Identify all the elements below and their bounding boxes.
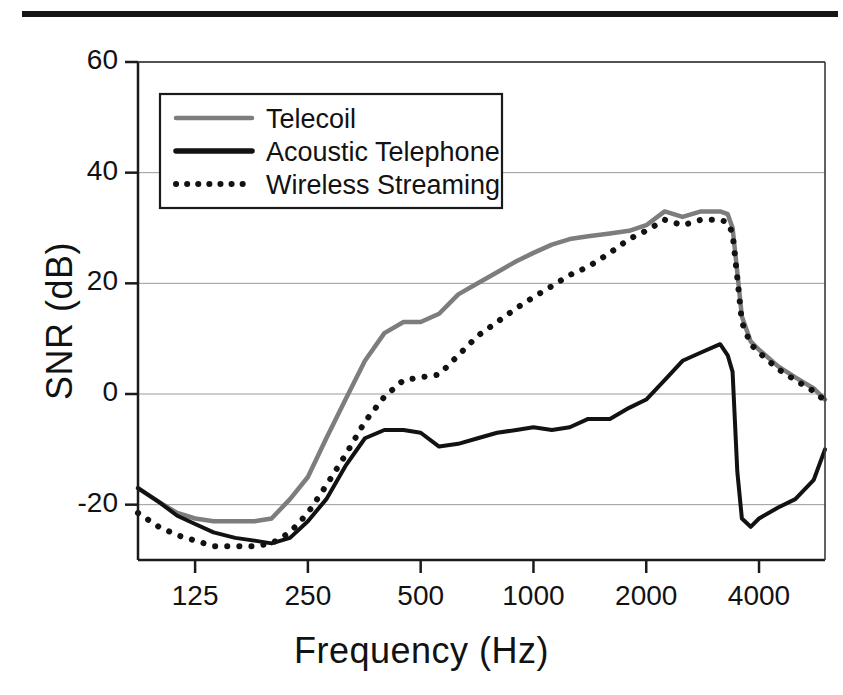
x-tick-label-500: 500	[361, 580, 481, 612]
x-tick-label-4000: 4000	[699, 580, 819, 612]
x-axis-title: Frequency (Hz)	[0, 630, 843, 672]
legend-label-wireless-streaming: Wireless Streaming	[266, 170, 500, 200]
legend-label-acoustic-telephone: Acoustic Telephone	[266, 137, 500, 167]
x-tick-label-125: 125	[135, 580, 255, 612]
x-tick-label-1000: 1000	[473, 580, 593, 612]
y-axis-title: SNR (dB)	[39, 121, 81, 521]
figure-container: TelecoilAcoustic TelephoneWireless Strea…	[0, 0, 843, 695]
legend: TelecoilAcoustic TelephoneWireless Strea…	[160, 94, 502, 208]
series-line-telecoil	[138, 211, 825, 521]
x-tick-label-250: 250	[248, 580, 368, 612]
legend-label-telecoil: Telecoil	[266, 104, 356, 134]
series-line-wireless-streaming	[138, 220, 825, 546]
y-tick-label-60: 60	[28, 44, 118, 76]
data-series-group	[138, 211, 825, 546]
series-line-acoustic-telephone	[138, 344, 825, 543]
x-tick-label-2000: 2000	[586, 580, 706, 612]
